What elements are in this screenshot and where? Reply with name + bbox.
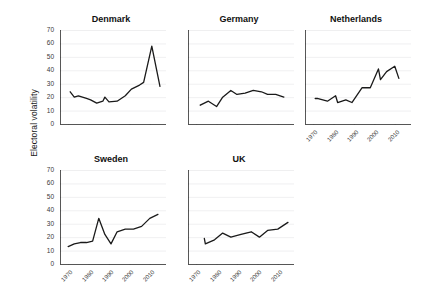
- x-tick-label: 1990: [229, 269, 243, 283]
- y-tick-label: 20: [38, 93, 54, 100]
- panel-title-netherlands: Netherlands: [305, 14, 407, 24]
- y-tick-label: 40: [38, 206, 54, 213]
- y-tick-label: 30: [38, 220, 54, 227]
- panel-title-denmark: Denmark: [60, 14, 162, 24]
- x-tick-label: 1970: [60, 269, 74, 283]
- y-tick-label: 50: [38, 53, 54, 60]
- x-tick-label: 1970: [188, 269, 202, 283]
- panel-title-uk: UK: [188, 154, 290, 164]
- x-tick-label: 2000: [121, 269, 135, 283]
- plot-area-sweden: [60, 170, 168, 265]
- plot-area-denmark: [60, 30, 168, 125]
- plot-area-germany: [188, 30, 296, 125]
- panel-title-germany: Germany: [188, 14, 290, 24]
- x-tick-label: 1990: [101, 269, 115, 283]
- y-tick-label: 20: [38, 233, 54, 240]
- x-tick-label: 1980: [80, 269, 94, 283]
- y-tick-label: 70: [38, 166, 54, 173]
- x-tick-label: 2010: [142, 269, 156, 283]
- x-tick-label: 2010: [387, 129, 401, 143]
- x-tick-label: 1980: [208, 269, 222, 283]
- y-tick-label: 30: [38, 80, 54, 87]
- x-tick-label: 2000: [249, 269, 263, 283]
- y-tick-label: 70: [38, 26, 54, 33]
- x-tick-label: 1970: [305, 129, 319, 143]
- x-tick-label: 1990: [346, 129, 360, 143]
- series-line-sweden: [68, 214, 158, 246]
- x-tick-label: 2010: [270, 269, 284, 283]
- figure-small-multiples: Electoral volatility Denmark010203040506…: [0, 0, 430, 290]
- plot-area-netherlands: [305, 30, 413, 125]
- x-tick-label: 1980: [325, 129, 339, 143]
- plot-area-uk: [188, 170, 296, 265]
- y-tick-label: 0: [38, 260, 54, 267]
- panel-title-sweden: Sweden: [60, 154, 162, 164]
- series-line-denmark: [70, 46, 160, 103]
- x-tick-label: 2000: [366, 129, 380, 143]
- y-tick-label: 40: [38, 66, 54, 73]
- series-line-uk: [204, 222, 288, 243]
- y-tick-label: 50: [38, 193, 54, 200]
- y-tick-label: 0: [38, 120, 54, 127]
- y-tick-label: 10: [38, 107, 54, 114]
- y-tick-label: 10: [38, 247, 54, 254]
- y-tick-label: 60: [38, 179, 54, 186]
- series-line-germany: [200, 90, 284, 106]
- y-tick-label: 60: [38, 39, 54, 46]
